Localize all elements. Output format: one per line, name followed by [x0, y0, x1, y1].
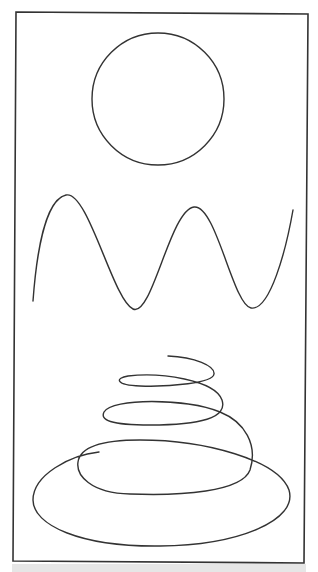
figure-canvas — [0, 0, 318, 572]
circle-shape — [92, 33, 224, 165]
spiral-curve — [33, 356, 290, 546]
sine-wave-curve — [33, 195, 293, 310]
caption-strip — [12, 564, 306, 572]
figure-frame — [13, 12, 308, 563]
